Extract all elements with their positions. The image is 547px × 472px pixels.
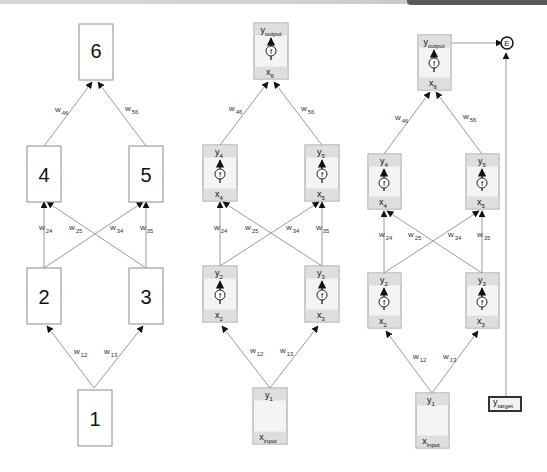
weight-w34: w34 xyxy=(285,223,300,234)
error-label: E xyxy=(504,39,509,48)
node-1: 1 xyxy=(78,390,112,446)
node-6-output: youtput f x6 xyxy=(254,23,288,79)
edge-1-2 xyxy=(222,326,270,388)
edge-5-6 xyxy=(274,82,322,145)
node-4: 4 xyxy=(27,146,61,202)
edge-3-4 xyxy=(223,202,322,266)
network-diagrams: 6 4 5 2 3 1 w46 w56 w24 w25 w34 w35 w12 … xyxy=(0,0,547,472)
panel-3-network-with-error: E ytarget youtput f x6 y4 f x4 xyxy=(368,35,521,448)
node-5: y5 f x5 xyxy=(305,145,339,201)
panel-1-simple-network: 6 4 5 2 3 1 w46 w56 w24 w25 w34 w35 w12 … xyxy=(27,24,163,446)
weight-w13: w13 xyxy=(442,352,457,363)
error-node: E xyxy=(501,37,513,49)
node-2-label: 2 xyxy=(38,286,49,308)
node-3: y3 f x3 xyxy=(305,266,339,322)
weight-w12: w12 xyxy=(73,347,88,358)
weight-w24: w24 xyxy=(213,223,228,234)
weight-w34: w34 xyxy=(447,230,462,241)
weight-w25: w25 xyxy=(244,223,259,234)
edge-3-4 xyxy=(387,211,482,273)
weight-w56: w56 xyxy=(124,104,139,115)
weight-w56: w56 xyxy=(462,112,477,123)
node-1-label: 1 xyxy=(89,408,100,430)
node-6-label: 6 xyxy=(90,40,101,62)
weight-w24: w24 xyxy=(378,230,393,241)
weight-w35: w35 xyxy=(476,230,491,241)
weight-w46: w46 xyxy=(394,113,409,124)
weight-w35: w35 xyxy=(139,223,154,234)
node-6-output: youtput f x6 xyxy=(418,35,451,90)
node-3: 3 xyxy=(129,268,163,324)
node-2: y2 f x2 xyxy=(203,266,237,322)
edge-5-6 xyxy=(436,92,482,154)
weight-w46: w46 xyxy=(54,105,69,116)
panel-2-detailed-network: youtput f x6 y4 f x4 y5 f x5 xyxy=(203,23,339,444)
node-6: 6 xyxy=(79,24,113,80)
edge-2-5 xyxy=(44,202,143,268)
weight-w34: w34 xyxy=(109,223,124,234)
node-5: 5 xyxy=(129,146,163,202)
node-4: y4 f x4 xyxy=(368,154,401,209)
edge-3-4 xyxy=(47,202,146,268)
weight-w56: w56 xyxy=(300,104,315,115)
weight-w13: w13 xyxy=(279,346,294,357)
weight-w12: w12 xyxy=(412,352,427,363)
node-3-label: 3 xyxy=(140,286,151,308)
edge-2-5 xyxy=(384,211,479,273)
edge-1-3 xyxy=(270,326,318,388)
target-node: ytarget xyxy=(489,397,521,411)
node-3: y3 f x3 xyxy=(466,273,499,328)
node-5: y5 f x5 xyxy=(466,154,499,209)
edge-5-6 xyxy=(98,82,146,146)
node-1-input: y1 xinput xyxy=(253,388,287,444)
node-4: y4 f x4 xyxy=(203,145,237,201)
node-5-label: 5 xyxy=(140,164,151,186)
weight-w35: w35 xyxy=(315,223,330,234)
weight-w13: w13 xyxy=(103,347,118,358)
node-4-label: 4 xyxy=(38,164,49,186)
weight-w24: w24 xyxy=(38,223,53,234)
node-2: 2 xyxy=(27,268,61,324)
edge-1-3 xyxy=(94,326,143,388)
edge-2-5 xyxy=(220,202,319,266)
weight-w25: w25 xyxy=(407,230,422,241)
node-1-input: y1 xinput xyxy=(416,393,449,448)
edge-4-6 xyxy=(220,82,268,145)
weight-w12: w12 xyxy=(249,346,264,357)
weight-w46: w46 xyxy=(228,104,243,115)
node-2: y2 f x2 xyxy=(368,273,401,328)
